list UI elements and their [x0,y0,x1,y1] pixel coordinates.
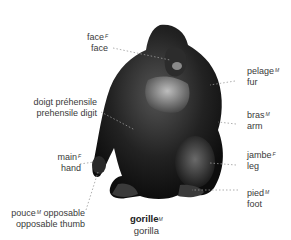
label-pouce-fr: pouce [11,208,36,218]
label-jambe: jambeF leg [247,150,276,172]
label-pelage-en: fur [247,77,279,88]
label-pied: piedM foot [247,188,269,210]
gender-marker: M [275,67,279,73]
label-face: faceF face [87,32,108,54]
label-pouce: pouceM opposable opposable thumb [11,208,85,230]
label-pelage-fr: pelage [247,66,274,76]
gender-marker: M [265,189,269,195]
gender-marker: F [78,153,81,159]
label-doigt-en: prehensile digit [33,108,97,119]
gender-marker: F [105,33,108,39]
title-fr: gorille [130,213,159,224]
label-jambe-fr: jambe [247,150,272,160]
label-bras-en: arm [247,121,270,132]
label-doigt-fr: doigt préhensile [33,97,97,107]
label-face-fr: face [87,32,104,42]
diagram-title: gorilleM gorilla [130,213,163,237]
gender-marker: M [159,216,163,222]
gorilla-muzzle [172,62,182,70]
label-pelage: pelageM fur [247,66,279,88]
label-main-en: hand [57,163,81,174]
label-bras: brasM arm [247,110,270,132]
label-doigt: doigt préhensile prehensile digit [33,97,97,119]
gorilla-hand [92,156,106,174]
label-main: mainF hand [57,152,81,174]
label-pouce-en: opposable thumb [11,219,85,230]
gender-marker: F [273,151,276,157]
label-bras-fr: bras [247,110,265,120]
title-en: gorilla [130,225,163,237]
gender-marker: M [266,111,270,117]
gender-marker: M [37,209,41,215]
label-pied-fr: pied [247,188,264,198]
label-pied-en: foot [247,199,269,210]
label-main-fr: main [57,152,77,162]
label-face-en: face [87,43,108,54]
label-jambe-en: leg [247,161,276,172]
gorilla-leg [175,136,215,188]
label-pouce-fr-suffix: opposable [43,208,85,218]
